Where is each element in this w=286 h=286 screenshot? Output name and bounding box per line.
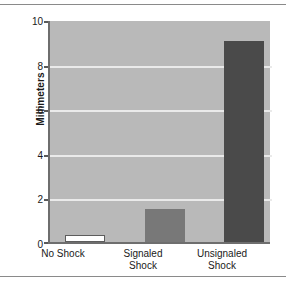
bar-signaled-shock — [145, 209, 185, 242]
x-tick-label-signaled-shock: Signaled Shock — [98, 248, 188, 271]
plot-area — [48, 21, 270, 244]
y-tick-label-4: 4 — [22, 151, 43, 161]
x-tick-line1-signaled-shock: Signaled — [98, 248, 188, 260]
x-tick-line2-unsignaled-shock: Shock — [177, 260, 267, 272]
x-tick-line1-unsignaled-shock: Unsignaled — [177, 248, 267, 260]
top-divider-rule — [0, 4, 286, 5]
x-tick-label-no-shock: No Shock — [18, 248, 108, 260]
bar-no-shock — [65, 235, 105, 242]
y-tick-label-8: 8 — [22, 62, 43, 72]
y-tick-label-6: 6 — [22, 106, 43, 116]
y-tick-label-2: 2 — [22, 195, 43, 205]
bar-unsignaled-shock — [224, 41, 264, 242]
bar-chart-figure: Millimeters 10 8 6 4 2 0 No Shock Signal… — [0, 0, 286, 286]
bottom-divider-rule — [0, 276, 286, 277]
x-tick-label-unsignaled-shock: Unsignaled Shock — [177, 248, 267, 271]
x-tick-line2-signaled-shock: Shock — [98, 260, 188, 272]
y-axis-tick-labels: 10 8 6 4 2 0 — [22, 21, 43, 244]
x-tick-line1-no-shock: No Shock — [18, 248, 108, 260]
y-tick-label-10: 10 — [22, 17, 43, 27]
